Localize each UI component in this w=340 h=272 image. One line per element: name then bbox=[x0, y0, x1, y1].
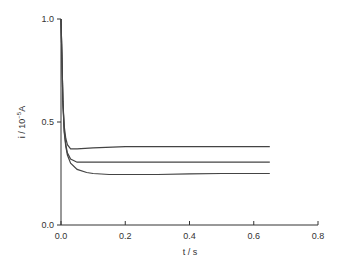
curve-3-line bbox=[61, 19, 270, 175]
curve-2-line bbox=[61, 19, 270, 162]
y-tick-label: 1.0 bbox=[41, 14, 54, 24]
x-tick-label: 0.0 bbox=[55, 231, 68, 241]
chart: 0.00.20.40.60.80.00.51.0 t / s i / 10−5A bbox=[0, 0, 340, 272]
tick-labels: 0.00.20.40.60.80.00.51.0 bbox=[41, 14, 324, 241]
x-tick-label: 0.6 bbox=[247, 231, 260, 241]
y-tick-label: 0.5 bbox=[41, 117, 54, 127]
y-tick-label: 0.0 bbox=[41, 220, 54, 230]
y-axis-label: i / 10−5A bbox=[16, 106, 27, 138]
curve-1-line bbox=[61, 19, 270, 149]
x-axis-label: t / s bbox=[183, 247, 198, 257]
axes bbox=[57, 19, 318, 225]
x-tick-label: 0.2 bbox=[119, 231, 132, 241]
data-series bbox=[61, 19, 270, 175]
x-tick-label: 0.4 bbox=[183, 231, 196, 241]
x-tick-label: 0.8 bbox=[312, 231, 325, 241]
